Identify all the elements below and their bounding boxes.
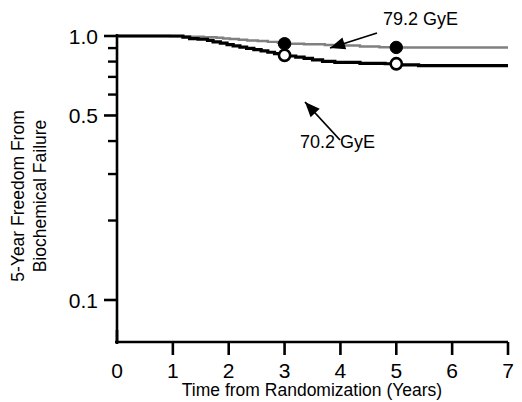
x-tick-label-3: 3 bbox=[279, 359, 291, 382]
marker-filled-circle-79-2-GyE-3y bbox=[278, 38, 290, 50]
x-tick-label-7: 7 bbox=[502, 359, 514, 382]
y-axis-title-line-2: Biochemical Failure bbox=[30, 120, 50, 273]
marker-open-circle-70-2-GyE-3y bbox=[279, 50, 290, 61]
y-tick-label-0.5: 0.5 bbox=[69, 104, 98, 127]
annotation-label-79-2-GyE: 79.2 GyE bbox=[383, 9, 458, 29]
x-axis-title: Time from Randomization (Years) bbox=[182, 380, 442, 400]
marker-open-circle-70-2-GyE-5y bbox=[391, 58, 402, 69]
x-tick-label-4: 4 bbox=[335, 359, 347, 382]
biochemical-failure-chart: 1.00.50.1 01234567 79.2 GyE70.2 GyE Time… bbox=[0, 0, 522, 402]
y-axis-title-line-1: 5-Year Freedom From bbox=[8, 110, 28, 282]
x-tick-label-2: 2 bbox=[223, 359, 235, 382]
y-tick-label-0.1: 0.1 bbox=[69, 289, 98, 312]
x-tick-label-0: 0 bbox=[111, 359, 123, 382]
x-tick-label-6: 6 bbox=[446, 359, 458, 382]
x-tick-label-5: 5 bbox=[390, 359, 402, 382]
chart-container: 1.00.50.1 01234567 79.2 GyE70.2 GyE Time… bbox=[0, 0, 522, 402]
x-tick-label-1: 1 bbox=[167, 359, 179, 382]
annotation-label-70-2-GyE: 70.2 GyE bbox=[300, 132, 375, 152]
marker-filled-circle-79-2-GyE-5y bbox=[390, 41, 402, 53]
y-tick-label-1.0: 1.0 bbox=[69, 25, 98, 48]
